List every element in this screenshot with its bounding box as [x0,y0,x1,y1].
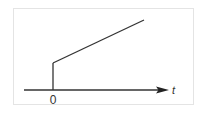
signal-plot [0,0,205,115]
time-axis-label: t [172,83,175,97]
signal-ramp [53,20,144,63]
origin-label: 0 [48,93,58,107]
